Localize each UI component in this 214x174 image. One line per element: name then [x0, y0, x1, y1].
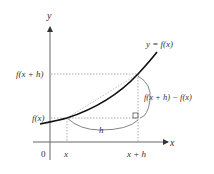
- right-angle-marker: [133, 113, 138, 118]
- difference-quotient-diagram: y x 0 x x + h f(x) f(x + h) y = f(x) h f…: [0, 0, 214, 174]
- y-axis-label: y: [46, 10, 52, 21]
- secant-line: [67, 74, 138, 118]
- vertical-difference-label: f(x + h) − f(x): [144, 92, 192, 102]
- x-tick-label: x: [63, 149, 68, 159]
- curve-label: y = f(x): [145, 39, 173, 49]
- fx-tick-label: f(x): [32, 113, 45, 123]
- origin-label: 0: [41, 149, 46, 159]
- h-label: h: [99, 125, 104, 135]
- function-curve: [40, 52, 157, 124]
- x-plus-h-tick-label: x + h: [126, 149, 147, 159]
- fx-plus-h-tick-label: f(x + h): [16, 69, 44, 79]
- x-axis-label: x: [169, 137, 175, 148]
